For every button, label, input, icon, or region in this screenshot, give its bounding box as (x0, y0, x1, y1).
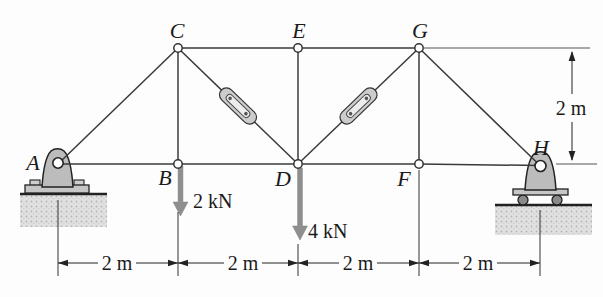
labels: A B C D E F G H 2 kN 4 kN 2 m 2 m 2 m 2 … (24, 18, 586, 274)
turnbuckle-DG-icon (337, 85, 380, 127)
arrow-left-icon (58, 260, 68, 266)
arrow-left-icon (178, 260, 188, 266)
joint-C (174, 44, 182, 52)
joint-label-C: C (170, 18, 185, 43)
arrow-left-icon (298, 260, 308, 266)
joint-pins (53, 44, 546, 172)
truss-figure-canvas: A B C D E F G H 2 kN 4 kN 2 m 2 m 2 m 2 … (0, 0, 603, 297)
joint-G (415, 44, 423, 52)
pin-hole-H (535, 161, 546, 172)
roller-left-icon (518, 195, 528, 205)
turnbuckle-CD-icon (217, 85, 260, 127)
member-AC (58, 48, 178, 164)
joint-label-F: F (396, 166, 411, 191)
ground-left-hatch (20, 194, 107, 227)
load-arrow-4kN-icon (293, 168, 308, 240)
arrow-down-icon (569, 151, 576, 161)
arrow-right-icon (288, 260, 298, 266)
ground-left (20, 194, 107, 227)
joint-label-E: E (291, 18, 306, 43)
load-label-4kN: 4 kN (308, 220, 347, 242)
joint-B (174, 160, 182, 168)
dim-label-span-BD: 2 m (228, 252, 259, 274)
joint-label-H: H (532, 135, 550, 160)
ground-right (495, 205, 592, 235)
roller-right-icon (552, 195, 562, 205)
arrow-left-icon (419, 260, 429, 266)
joint-label-D: D (274, 166, 291, 191)
pin-hole-A (53, 158, 63, 168)
arrow-up-icon (569, 51, 576, 61)
arrow-right-icon (409, 260, 419, 266)
truss-members (58, 48, 540, 166)
dim-label-span-DF: 2 m (343, 252, 374, 274)
dim-label-height: 2 m (556, 97, 587, 119)
member-FH (419, 164, 540, 166)
dim-label-span-FH: 2 m (463, 252, 494, 274)
dim-label-span-AB: 2 m (102, 252, 133, 274)
load-arrow-2kN-icon (173, 166, 188, 216)
joint-label-B: B (158, 165, 171, 190)
ground-right-hatch (495, 205, 592, 235)
arrow-right-icon (168, 260, 178, 266)
joint-D (294, 160, 302, 168)
joint-label-A: A (24, 150, 40, 175)
member-GH (419, 48, 540, 166)
truss-diagram-svg: A B C D E F G H 2 kN 4 kN 2 m 2 m 2 m 2 … (0, 0, 603, 297)
joint-F (415, 160, 423, 168)
arrow-right-icon (530, 260, 540, 266)
load-label-2kN: 2 kN (193, 190, 232, 212)
joint-label-G: G (412, 18, 428, 43)
joint-E (294, 44, 302, 52)
